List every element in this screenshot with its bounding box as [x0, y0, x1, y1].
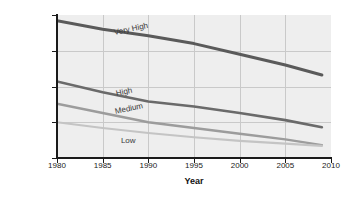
plot-area: Very HighHighMediumLow: [57, 15, 331, 158]
y-axis-line: [56, 14, 58, 159]
x-tick-label: 1985: [94, 161, 112, 170]
x-tick-label: 2005: [276, 161, 294, 170]
series-line-medium: [57, 104, 322, 145]
x-tick-label: 1990: [139, 161, 157, 170]
x-tick-label: 2000: [231, 161, 249, 170]
series-line-high: [57, 81, 322, 127]
x-tick-label: 2010: [322, 161, 340, 170]
x-tick-label: 1995: [185, 161, 203, 170]
x-axis-title: Year: [57, 176, 331, 186]
x-tick-label: 1980: [48, 161, 66, 170]
series-label-low: Low: [121, 136, 136, 145]
x-axis-line: [56, 157, 332, 159]
series-line-very-high: [57, 21, 322, 75]
chart-figure: Under-five mortality rate per 1,000 live…: [0, 0, 344, 198]
series-lines: [57, 15, 331, 158]
series-line-low: [57, 122, 322, 146]
